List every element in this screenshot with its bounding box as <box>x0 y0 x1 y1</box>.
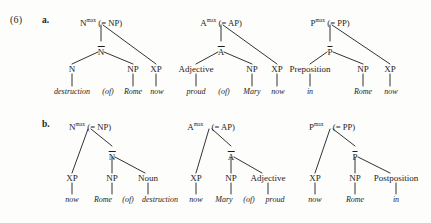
max-superscript: max <box>315 17 325 23</box>
tree-a-prep-bar-wrap: P <box>327 41 332 59</box>
tree-a-adj-bar-wrap: A <box>218 41 225 59</box>
row-a-letter: a. <box>42 15 49 25</box>
tree-b-noun-child-0: XP <box>66 173 78 183</box>
tree-a-prep-root: Pmax (= PP) <box>310 15 349 28</box>
root-equiv: (= NP) <box>87 122 111 132</box>
tree-b-noun-root: Nmax (= NP) <box>69 119 111 132</box>
tree-a-prep-terminal-0: in <box>307 87 313 96</box>
tree-a-adj-child-0: Adjective <box>179 64 214 74</box>
max-superscript: max <box>207 17 217 23</box>
root-equiv: (= NP) <box>98 18 122 28</box>
tree-b-noun-terminal-2: (of) <box>122 195 134 204</box>
tree-b-noun-bar: N <box>109 151 116 162</box>
tree-a-adj-child-1: NP <box>246 64 258 74</box>
tree-a-noun-bar: N <box>98 46 105 57</box>
tree-a-prep-child-1: NP <box>357 64 369 74</box>
tree-a-noun-terminal-2: Rome <box>124 87 142 96</box>
root-equiv: (= PP) <box>333 122 355 132</box>
tree-b-post-terminal-1: Rome <box>346 195 364 204</box>
tree-a-noun-terminal-3: now <box>150 87 163 96</box>
tree-b-post-bar-wrap: P <box>352 146 357 164</box>
tree-a-prep-bar: P <box>327 46 332 57</box>
tree-a-noun-terminal-1: (of) <box>102 87 114 96</box>
tree-b-post-terminal-0: now <box>308 195 321 204</box>
tree-a-noun-lines <box>0 0 431 223</box>
tree-b-adj-terminal-0: now <box>189 195 202 204</box>
tree-b-noun-terminal-0: now <box>65 195 78 204</box>
row-b-letter: b. <box>42 119 50 129</box>
tree-b-noun-terminal-3: destruction <box>142 195 178 204</box>
tree-b-adj-bar-wrap: A <box>228 146 235 164</box>
tree-a-adj-bar: A <box>218 46 225 57</box>
tree-a-prep-terminal-2: now <box>384 87 397 96</box>
tree-a-noun-child-1: NP <box>127 64 139 74</box>
tree-a-adj-terminal-0: proud <box>187 87 206 96</box>
tree-b-noun-terminal-1: Rome <box>94 195 112 204</box>
root-equiv: (= PP) <box>327 18 349 28</box>
tree-b-post-child-1: NP <box>349 173 361 183</box>
tree-b-adj-terminal-2: (of) <box>243 195 255 204</box>
tree-b-post-child-2: Postposition <box>374 173 419 183</box>
tree-b-post-root: Pmax (= PP) <box>309 119 355 132</box>
tree-b-adj-child-0: XP <box>190 173 202 183</box>
tree-a-prep-lines <box>0 0 431 223</box>
tree-b-adj-child-2: Adjective <box>251 173 286 183</box>
root-equiv: (= AP) <box>212 122 235 132</box>
tree-a-noun-child-2: XP <box>150 64 162 74</box>
tree-b-adj-root: Amax (= AP) <box>187 119 235 132</box>
tree-b-adj-child-1: NP <box>225 173 237 183</box>
tree-a-noun-bar-wrap: N <box>98 41 105 59</box>
tree-a-adj-terminal-2: Mary <box>243 87 260 96</box>
tree-b-post-terminal-2: in <box>393 195 399 204</box>
tree-b-noun-lines <box>0 0 431 223</box>
tree-b-noun-child-1: NP <box>106 173 118 183</box>
tree-a-adj-root: Amax (= AP) <box>200 15 242 28</box>
tree-a-noun-root: Nmax (= NP) <box>80 15 122 28</box>
max-superscript: max <box>194 121 204 127</box>
figure-page: (6) a. Nmax (= NP) N N NP XP destruction… <box>0 0 431 223</box>
tree-b-adj-terminal-3: proud <box>266 195 285 204</box>
tree-a-prep-child-2: XP <box>384 64 396 74</box>
tree-b-post-child-0: XP <box>309 173 321 183</box>
tree-b-post-bar: P <box>352 151 357 162</box>
tree-a-adj-lines <box>0 0 431 223</box>
example-number: (6) <box>10 14 22 25</box>
tree-a-adj-terminal-1: (of) <box>218 87 230 96</box>
tree-a-adj-terminal-3: now <box>271 87 284 96</box>
tree-b-post-lines <box>0 0 431 223</box>
tree-b-adj-lines <box>0 0 431 223</box>
max-superscript: max <box>86 17 96 23</box>
max-superscript: max <box>314 121 324 127</box>
tree-b-adj-terminal-1: Mary <box>215 195 232 204</box>
tree-a-prep-terminal-1: Rome <box>354 87 372 96</box>
tree-a-noun-terminal-0: destruction <box>54 87 90 96</box>
tree-a-adj-child-2: XP <box>271 64 283 74</box>
tree-b-noun-child-2: Noun <box>138 173 158 183</box>
tree-b-adj-bar: A <box>228 151 235 162</box>
root-equiv: (= AP) <box>219 18 242 28</box>
tree-b-noun-bar-wrap: N <box>109 146 116 164</box>
tree-a-noun-child-0: N <box>69 64 76 74</box>
tree-a-prep-child-0: Preposition <box>289 64 330 74</box>
max-superscript: max <box>75 121 85 127</box>
